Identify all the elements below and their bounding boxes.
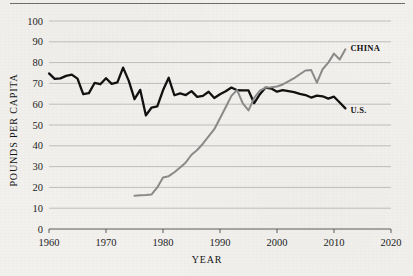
y-tick-label-10: 10 [33, 203, 44, 214]
y-tick-label-50: 50 [33, 120, 44, 131]
y-tick-label-40: 40 [33, 140, 44, 151]
y-tick-label-70: 70 [33, 78, 44, 89]
y-tick-label-0: 0 [38, 224, 43, 235]
x-tick-label-2000: 2000 [267, 237, 288, 248]
data-series [49, 49, 345, 195]
series-label-us: U.S. [350, 105, 366, 115]
x-tick-label-1970: 1970 [96, 237, 117, 248]
series-line-china [135, 49, 346, 195]
y-tick-label-30: 30 [33, 161, 44, 172]
gridlines [49, 21, 391, 208]
y-axis-title: POUNDS PER CAPITA [8, 73, 19, 186]
series-label-china: CHINA [350, 43, 380, 53]
y-tick-label-80: 80 [33, 57, 44, 68]
chart-canvas: 0102030405060708090100 19601970198019902… [0, 0, 413, 276]
y-tick-label-90: 90 [33, 36, 44, 47]
line-chart: 0102030405060708090100 19601970198019902… [0, 0, 413, 276]
y-tick-label-100: 100 [27, 16, 43, 27]
series-line-us [49, 68, 345, 116]
y-tick-label-20: 20 [33, 182, 44, 193]
x-tick-label-1960: 1960 [39, 237, 60, 248]
x-tick-label-1990: 1990 [210, 237, 231, 248]
x-tick-label-1980: 1980 [153, 237, 174, 248]
x-tick-label-2020: 2020 [381, 237, 402, 248]
x-tick-label-2010: 2010 [324, 237, 345, 248]
y-tick-label-60: 60 [33, 99, 44, 110]
x-axis-title: YEAR [192, 254, 223, 265]
x-axis: 1960197019801990200020102020 [39, 229, 402, 248]
y-axis-ticks: 0102030405060708090100 [27, 16, 43, 235]
